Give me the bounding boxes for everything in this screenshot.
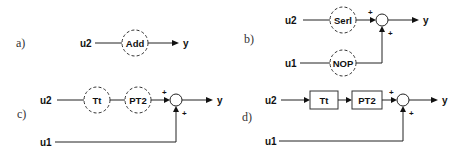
input-u2-d: u2 (265, 95, 277, 106)
arrow-head-icon (164, 97, 170, 103)
panel-label-d: d) (242, 110, 252, 124)
wire-u1-to-sum-d (279, 111, 403, 141)
arrow-head-icon (173, 106, 179, 112)
panel-c: c) u2 Tt PT2 + y u1 + (17, 87, 223, 148)
summing-junction-d (397, 94, 409, 106)
block-pt2-c-label: PT2 (129, 95, 146, 106)
block-diagram-figure: a) u2 Add y b) u2 Serl + y u1 NOP + c) u… (0, 0, 460, 152)
panel-d: d) u2 Tt PT2 + y u1 + (242, 88, 448, 147)
arrow-head-icon (346, 97, 352, 103)
arrow-head-icon (304, 97, 310, 103)
sum-sign-bottom-b: + (388, 29, 393, 38)
sum-sign-top-d: + (389, 88, 394, 97)
input-u1-c: u1 (40, 137, 52, 148)
summing-junction-b (376, 14, 388, 26)
sum-sign-top-c: + (162, 88, 167, 97)
wire-u1-to-sum-c (55, 111, 176, 142)
arrow-head-icon (172, 40, 179, 46)
input-u1-b: u1 (285, 58, 297, 69)
output-y-a: y (183, 38, 189, 49)
panel-label-b: b) (244, 32, 254, 46)
arrow-head-icon (206, 97, 213, 103)
block-serl-label: Serl (334, 15, 352, 26)
arrow-head-icon (431, 97, 438, 103)
panel-a: a) u2 Add y (16, 30, 189, 56)
block-tt-d-label: Tt (320, 95, 330, 106)
panel-b: b) u2 Serl + y u1 NOP + (244, 7, 429, 76)
arrow-head-icon (412, 17, 419, 23)
input-u2-c: u2 (40, 95, 52, 106)
output-y-c: y (217, 95, 223, 106)
sum-sign-top-b: + (368, 8, 373, 17)
block-tt-c-label: Tt (93, 95, 103, 106)
block-pt2-d-label: PT2 (358, 95, 375, 106)
arrow-head-icon (379, 26, 385, 32)
summing-junction-c (170, 94, 182, 106)
output-y-d: y (442, 95, 448, 106)
block-nop-label: NOP (333, 58, 354, 69)
arrow-head-icon (400, 106, 406, 112)
wire-nop-to-sum (356, 31, 382, 63)
arrow-head-icon (391, 97, 397, 103)
input-u2-a: u2 (80, 38, 92, 49)
output-y-b: y (423, 15, 429, 26)
input-u2-b: u2 (285, 15, 297, 26)
panel-label-c: c) (17, 107, 26, 121)
input-u1-d: u1 (265, 136, 277, 147)
arrow-head-icon (370, 17, 376, 23)
block-add-label: Add (126, 38, 145, 49)
sum-sign-bottom-d: + (409, 109, 414, 118)
panel-label-a: a) (16, 36, 25, 50)
sum-sign-bottom-c: + (182, 109, 187, 118)
